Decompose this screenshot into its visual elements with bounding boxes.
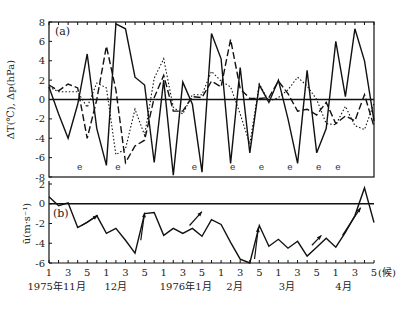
y-tick-label-b: -2 — [35, 218, 45, 229]
x-tick-label: 5 — [313, 267, 319, 278]
chart-figure: 86420-2-4-6-8(a)ΔT(℃), Δp(hPa)eeeeeeee 2… — [0, 0, 417, 312]
y-tick-label-b: 2 — [39, 179, 45, 190]
x-tick-label: 3 — [294, 267, 300, 278]
e-marker: e — [259, 162, 264, 172]
month-label: 12月 — [104, 281, 127, 292]
y-tick-label-a: -6 — [35, 152, 45, 163]
y-tick-label-a: 0 — [39, 94, 45, 105]
x-tick-label: 1 — [333, 267, 339, 278]
e-marker: e — [192, 162, 197, 172]
x-tick-label: 1 — [103, 267, 109, 278]
x-tick-label: 5 — [141, 267, 147, 278]
month-label: 1975年11月 — [27, 280, 85, 292]
trend-arrow — [342, 208, 360, 236]
x-tick-label: 5 — [199, 267, 205, 278]
x-tick-label: 3 — [237, 267, 243, 278]
x-tick-label: 1 — [218, 267, 224, 278]
x-tick-label: 1 — [46, 267, 52, 278]
series-u-line — [49, 188, 374, 263]
y-tick-label-b: -6 — [35, 258, 45, 269]
month-label: 4月 — [335, 281, 351, 292]
month-label: 1976年1月 — [160, 280, 212, 292]
y-tick-label-a: 4 — [39, 55, 45, 66]
x-axis: 135135135135135135(候)1975年11月12月1976年1月2… — [27, 260, 395, 292]
panel-a: 86420-2-4-6-8(a)ΔT(℃), Δp(hPa)eeeeeeee — [5, 17, 374, 183]
series-dashed-line — [49, 39, 374, 162]
y-axis-label-b: ū(m·s⁻¹) — [21, 203, 32, 244]
panel-b: 20-2-4-6(b)ū(m·s⁻¹) — [21, 179, 374, 269]
panel-b-label: (b) — [53, 207, 69, 220]
e-marker: e — [316, 162, 321, 172]
y-tick-label-b: 0 — [39, 198, 45, 209]
x-tick-label: 5 — [371, 267, 377, 278]
y-tick-label-a: -4 — [35, 133, 45, 144]
e-marker: e — [230, 162, 235, 172]
y-axis-label-a: ΔT(℃), Δp(hPa) — [5, 60, 16, 139]
y-tick-label-a: 2 — [39, 75, 45, 86]
x-tick-label: 5 — [84, 267, 90, 278]
x-tick-label: 5 — [256, 267, 262, 278]
e-marker: e — [77, 162, 82, 172]
e-marker: e — [287, 162, 292, 172]
month-label: 2月 — [226, 281, 242, 292]
y-tick-label-b: -4 — [35, 238, 45, 249]
x-tick-label: 1 — [275, 267, 281, 278]
panel-a-label: (a) — [55, 25, 70, 38]
x-tick-label: 3 — [65, 267, 71, 278]
x-tick-label: 3 — [352, 267, 358, 278]
series-dotted-line — [49, 59, 374, 155]
x-tick-label: 1 — [161, 267, 167, 278]
e-marker: e — [335, 162, 340, 172]
y-tick-label-a: -2 — [35, 113, 45, 124]
e-marker: e — [115, 162, 120, 172]
y-tick-label-a: 8 — [39, 17, 45, 28]
x-unit-label: (候) — [378, 266, 396, 278]
x-tick-label: 3 — [122, 267, 128, 278]
y-tick-label-a: 6 — [39, 36, 45, 47]
x-tick-label: 3 — [180, 267, 186, 278]
month-label: 3月 — [279, 281, 295, 292]
